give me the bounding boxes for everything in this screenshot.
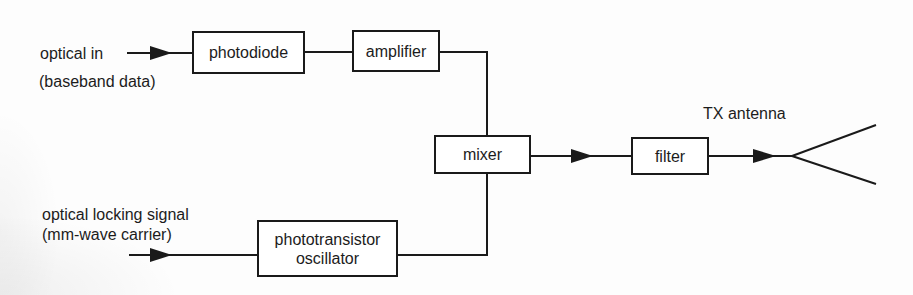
wire-amplifier-to-mixer (440, 52, 487, 135)
tx-antenna-label: TX antenna (703, 104, 786, 123)
amplifier-label: amplifier (366, 42, 426, 61)
optical-in-label: optical in (40, 44, 103, 63)
wire-oscillator-to-mixer (398, 174, 487, 255)
mixer-label: mixer (463, 145, 502, 164)
antenna-icon (792, 125, 876, 184)
filter-block: filter (631, 137, 709, 175)
filter-label: filter (655, 147, 685, 166)
baseband-data-label: (baseband data) (39, 72, 156, 91)
photodiode-label: photodiode (209, 43, 288, 62)
arrowhead-icon (571, 149, 593, 163)
oscillator-label: oscillator (296, 249, 359, 268)
block-diagram: optical in (baseband data) optical locki… (0, 0, 913, 295)
phototransistor-oscillator-block: phototransistor oscillator (257, 220, 398, 277)
mixer-block: mixer (434, 135, 531, 174)
mm-wave-carrier-label: (mm-wave carrier) (42, 225, 172, 244)
optical-locking-signal-label: optical locking signal (42, 205, 189, 224)
phototransistor-label: phototransistor (275, 230, 381, 249)
arrowhead-icon (150, 248, 172, 262)
amplifier-block: amplifier (352, 30, 440, 72)
arrowhead-icon (150, 46, 172, 60)
arrowhead-icon (753, 149, 776, 163)
photodiode-block: photodiode (192, 31, 305, 74)
